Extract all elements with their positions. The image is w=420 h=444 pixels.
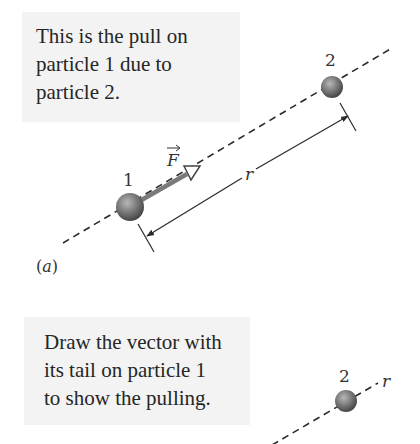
dashed-axis-line: [63, 48, 392, 243]
particle-2: [321, 76, 343, 98]
particle-1-label: 1: [123, 170, 134, 190]
force-diagram: r F 1 2 (a) 2 r: [0, 0, 420, 444]
particle-1: [116, 193, 144, 221]
particle-2-label: 2: [339, 366, 350, 386]
panel-b: 2 r: [272, 366, 391, 444]
panel-a-label: (a): [36, 257, 58, 276]
force-arrow-shaft: [138, 174, 187, 202]
force-label: F: [166, 150, 180, 170]
distance-label: r: [382, 371, 391, 391]
distance-arrow-right: [256, 116, 348, 169]
particle-2-label: 2: [325, 50, 336, 70]
distance-label: r: [245, 164, 254, 184]
particle-2: [335, 390, 357, 412]
distance-tick-1: [138, 224, 154, 252]
distance-tick-2: [340, 103, 356, 131]
dashed-axis-line: [272, 383, 378, 444]
panel-a: r F 1 2 (a): [36, 48, 392, 276]
